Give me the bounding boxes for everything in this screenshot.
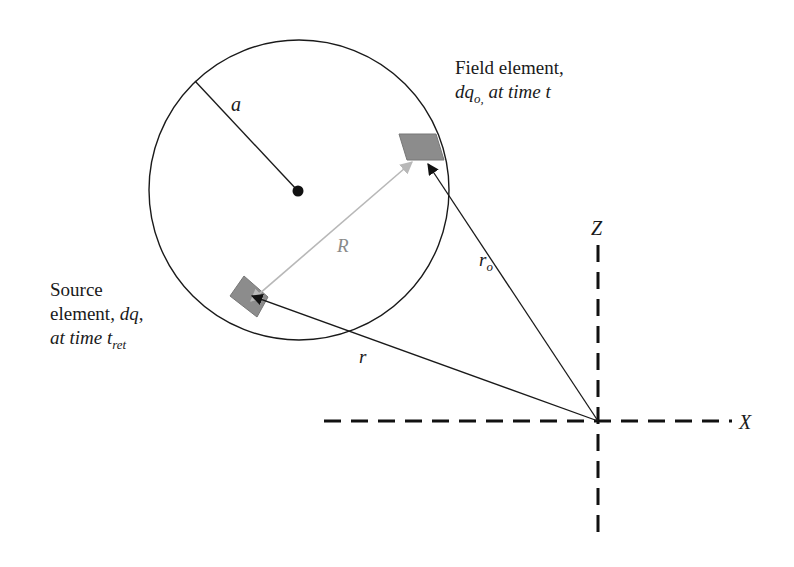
source-caption-line1: Source bbox=[50, 278, 143, 302]
diagram-canvas: a R r ro Z X Field element, dqo, at time… bbox=[0, 0, 794, 567]
x-axis-label: X bbox=[739, 412, 751, 432]
R-separation-arrow bbox=[251, 162, 412, 301]
source-element-caption: Source element, dq, at time tret bbox=[50, 278, 143, 357]
field-caption-sub: o, bbox=[474, 91, 484, 106]
source-caption-line2: element, dq, bbox=[50, 302, 143, 326]
R-label: R bbox=[337, 236, 349, 255]
source-element bbox=[230, 276, 268, 317]
field-element-caption: Field element, dqo, at time t bbox=[455, 56, 564, 111]
radius-label: a bbox=[231, 94, 241, 114]
source-caption-line3: at time tret bbox=[50, 326, 143, 357]
center-dot bbox=[293, 186, 304, 197]
field-caption-line1: Field element, bbox=[455, 56, 564, 80]
field-caption-rest: at time t bbox=[484, 81, 551, 102]
source-caption-time: at time t bbox=[50, 327, 112, 348]
source-caption-sub: ret bbox=[112, 337, 126, 352]
r-o-label-sub: o bbox=[486, 259, 492, 274]
source-caption-text: element, bbox=[50, 303, 120, 324]
r-o-vector bbox=[428, 164, 598, 421]
field-caption-line2: dqo, at time t bbox=[455, 80, 564, 111]
z-axis-label: Z bbox=[591, 218, 602, 238]
r-o-label: ro bbox=[479, 250, 493, 273]
source-caption-comma: , bbox=[139, 303, 144, 324]
r-label: r bbox=[359, 347, 366, 366]
field-caption-var: dq bbox=[455, 81, 474, 102]
radius-line bbox=[195, 81, 297, 190]
source-caption-var: dq bbox=[120, 303, 139, 324]
r-vector bbox=[252, 296, 598, 421]
field-element bbox=[399, 134, 444, 160]
